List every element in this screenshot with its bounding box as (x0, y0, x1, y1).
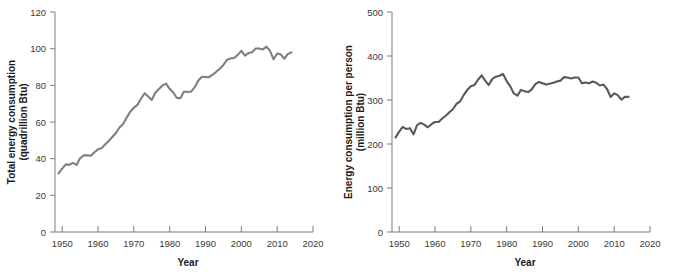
right-x-tick-labels: 1950 1960 1970 1980 1990 2000 2010 2020 (389, 238, 661, 249)
x-tick-label: 1980 (159, 238, 180, 249)
y-tick-label: 400 (367, 51, 383, 62)
x-tick-label: 2020 (302, 238, 323, 249)
y-tick-label: 20 (35, 190, 46, 201)
x-tick-label: 1980 (496, 238, 517, 249)
left-x-ticks (62, 226, 313, 232)
left-data-series (59, 47, 292, 174)
right-data-series (396, 74, 629, 137)
y-tick-label: 0 (378, 227, 383, 238)
right-chart-svg: 0 100 200 300 400 500 1950 1960 197 (337, 0, 674, 274)
chart-panel-total-energy: 0 20 40 60 80 100 120 1950 1 (0, 0, 337, 274)
left-y-ticks (50, 12, 55, 232)
y-tick-label: 0 (41, 227, 46, 238)
y-tick-label: 300 (367, 95, 383, 106)
left-x-axis-title: Year (177, 257, 198, 268)
y-tick-label: 40 (35, 153, 46, 164)
chart-panel-per-person: 0 100 200 300 400 500 1950 1960 197 (337, 0, 674, 274)
right-y-axis-title-line2: (million Btu) (355, 93, 366, 151)
y-tick-label: 100 (30, 43, 46, 54)
x-tick-label: 2000 (231, 238, 252, 249)
left-x-tick-labels: 1950 1960 1970 1980 1990 2000 2010 2020 (52, 238, 324, 249)
x-tick-label: 1960 (87, 238, 108, 249)
y-tick-label: 60 (35, 117, 46, 128)
x-tick-label: 1990 (195, 238, 216, 249)
right-y-axis-title-line1: Energy consumption per person (343, 45, 354, 199)
right-y-tick-labels: 0 100 200 300 400 500 (367, 7, 383, 238)
x-tick-label: 1990 (532, 238, 553, 249)
x-tick-label: 2000 (568, 238, 589, 249)
y-tick-label: 200 (367, 139, 383, 150)
y-tick-label: 500 (367, 7, 383, 18)
x-tick-label: 1950 (52, 238, 73, 249)
right-x-ticks (399, 226, 650, 232)
x-tick-label: 1960 (424, 238, 445, 249)
energy-consumption-figure: 0 20 40 60 80 100 120 1950 1 (0, 0, 675, 274)
left-chart-svg: 0 20 40 60 80 100 120 1950 1 (0, 0, 337, 274)
right-y-ticks (387, 12, 392, 232)
right-x-axis-title: Year (514, 257, 535, 268)
x-tick-label: 2010 (604, 238, 625, 249)
x-tick-label: 1970 (123, 238, 144, 249)
y-tick-label: 80 (35, 80, 46, 91)
x-tick-label: 2020 (639, 238, 660, 249)
x-tick-label: 1950 (389, 238, 410, 249)
left-y-axis-title-line1: Total energy consumption (6, 60, 17, 184)
left-y-tick-labels: 0 20 40 60 80 100 120 (30, 7, 46, 238)
x-tick-label: 1970 (460, 238, 481, 249)
x-tick-label: 2010 (267, 238, 288, 249)
y-tick-label: 120 (30, 7, 46, 18)
left-y-axis-title-line2: (quadrillion Btu) (18, 83, 29, 160)
y-tick-label: 100 (367, 183, 383, 194)
